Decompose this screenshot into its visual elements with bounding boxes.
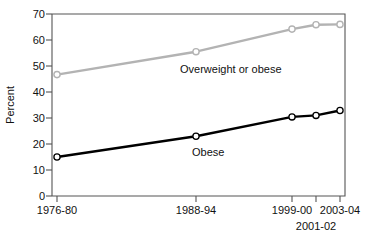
- y-axis-ticks: [46, 14, 52, 196]
- series-annotation-obese: Obese: [192, 147, 224, 158]
- chart-figure: Percent 70 60 50 40 30 20 10 0 1976-80 1…: [0, 0, 377, 236]
- x-axis-ticks: [57, 196, 340, 202]
- x-tick-label-1976-80: 1976-80: [27, 205, 87, 216]
- y-tick-label-20: 20: [29, 139, 45, 150]
- plot-frame: [52, 14, 345, 196]
- line-chart-plot: Percent: [0, 0, 377, 236]
- y-tick-label-40: 40: [29, 87, 45, 98]
- series-annotation-overweight-or-obese: Overweight or obese: [180, 64, 282, 75]
- y-tick-label-10: 10: [29, 165, 45, 176]
- y-axis-title: Percent: [4, 86, 16, 124]
- x-tick-label-1988-94: 1988-94: [166, 205, 226, 216]
- y-tick-label-30: 30: [29, 113, 45, 124]
- y-tick-label-50: 50: [29, 61, 45, 72]
- y-tick-label-70: 70: [29, 9, 45, 20]
- y-tick-label-0: 0: [29, 191, 45, 202]
- x-tick-label-2003-04: 2003-04: [310, 205, 370, 216]
- y-tick-label-60: 60: [29, 35, 45, 46]
- x-tick-label-2001-02: 2001-02: [286, 221, 346, 232]
